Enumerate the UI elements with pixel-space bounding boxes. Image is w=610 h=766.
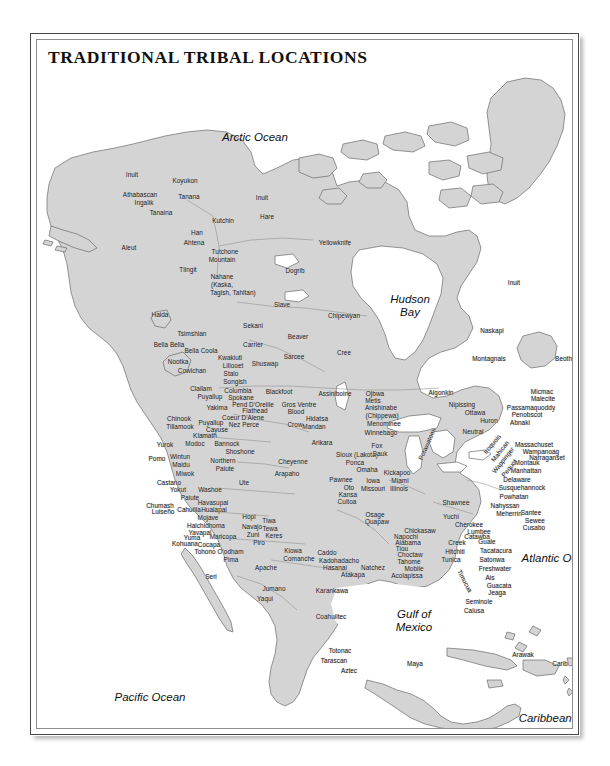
jamaica-island <box>487 680 503 688</box>
arctic-island-4 <box>427 122 469 146</box>
map-canvas: Arctic OceanHudsonBayAtlantic OceanPacif… <box>37 40 572 728</box>
arctic-island-3 <box>383 132 425 152</box>
cuba-island <box>447 648 517 670</box>
newfoundland-island <box>517 332 557 368</box>
north-america-landmass <box>37 40 572 728</box>
traditional-tribal-locations-map: TRADITIONAL TRIBAL LOCATIONS <box>0 0 610 766</box>
arctic-island-7 <box>439 188 471 208</box>
hispaniola-island <box>523 660 559 676</box>
lake-erie <box>437 462 467 472</box>
aleutian-chain-1 <box>43 240 53 246</box>
bahamas-islands <box>505 626 541 652</box>
puerto-rico-island <box>567 658 572 666</box>
lesser-antilles <box>563 676 572 696</box>
arctic-island-5 <box>429 160 461 180</box>
lake-ontario <box>469 450 491 460</box>
arctic-island-2 <box>341 140 379 160</box>
greenland <box>487 78 565 204</box>
central-america <box>365 680 521 728</box>
gulf-of-mexico-water <box>331 584 461 650</box>
